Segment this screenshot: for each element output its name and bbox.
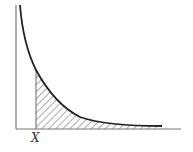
decay-curve-diagram: X (0, 0, 193, 152)
diagram-canvas (0, 0, 193, 152)
x-marker-label: X (31, 132, 40, 144)
shaded-tail-area (36, 60, 166, 130)
